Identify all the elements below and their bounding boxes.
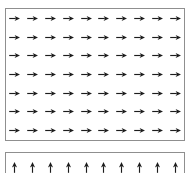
arrow-icon <box>26 31 39 44</box>
arrow-icon <box>44 49 57 62</box>
arrow-cell <box>131 31 149 44</box>
arrow-cell <box>113 105 131 118</box>
arrow-cell <box>95 124 113 137</box>
arrow-cell <box>148 31 166 44</box>
arrow-cell <box>24 124 42 137</box>
arrow-icon <box>8 105 21 118</box>
arrow-cell <box>59 161 77 174</box>
arrow-cell <box>77 68 95 81</box>
arrow-row <box>6 153 184 173</box>
arrow-cell <box>42 31 60 44</box>
arrow-cell <box>6 124 24 137</box>
arrow-cell <box>113 12 131 25</box>
arrow-cell <box>131 105 149 118</box>
arrow-cell <box>148 68 166 81</box>
arrow-icon <box>44 87 57 100</box>
arrow-grid-top <box>6 9 184 140</box>
arrow-icon <box>133 12 146 25</box>
arrow-icon <box>26 161 39 174</box>
arrow-icon <box>44 12 57 25</box>
arrow-icon <box>151 49 164 62</box>
arrow-cell <box>166 12 184 25</box>
arrow-cell <box>131 87 149 100</box>
arrow-row <box>6 84 184 103</box>
arrow-icon <box>80 105 93 118</box>
arrow-icon <box>169 68 182 81</box>
arrow-icon <box>169 161 182 174</box>
arrow-icon <box>62 49 75 62</box>
arrow-icon <box>97 31 110 44</box>
arrow-icon <box>8 87 21 100</box>
arrow-cell <box>24 105 42 118</box>
arrow-icon <box>62 12 75 25</box>
arrow-cell <box>148 49 166 62</box>
arrow-cell <box>42 68 60 81</box>
arrow-icon <box>133 49 146 62</box>
arrow-icon <box>133 68 146 81</box>
arrow-icon <box>97 105 110 118</box>
arrow-icon <box>8 12 21 25</box>
arrow-icon <box>97 12 110 25</box>
arrow-icon <box>62 105 75 118</box>
arrow-icon <box>169 87 182 100</box>
arrow-cell <box>24 12 42 25</box>
arrow-icon <box>169 12 182 25</box>
arrow-icon <box>151 31 164 44</box>
arrow-icon <box>8 68 21 81</box>
arrow-icon <box>8 49 21 62</box>
arrow-cell <box>131 68 149 81</box>
arrow-cell <box>113 161 131 174</box>
arrow-icon <box>26 87 39 100</box>
arrow-icon <box>26 105 39 118</box>
arrow-icon <box>8 161 21 174</box>
arrow-row <box>6 121 184 140</box>
arrow-cell <box>131 49 149 62</box>
arrow-icon <box>80 161 93 174</box>
arrow-cell <box>24 31 42 44</box>
arrow-icon <box>26 49 39 62</box>
arrow-row <box>6 9 184 28</box>
arrow-cell <box>59 31 77 44</box>
arrow-icon <box>115 87 128 100</box>
arrow-icon <box>80 31 93 44</box>
vector-field-panel-top <box>5 8 185 141</box>
arrow-icon <box>115 68 128 81</box>
arrow-row <box>6 46 184 65</box>
arrow-icon <box>80 12 93 25</box>
arrow-cell <box>59 49 77 62</box>
arrow-icon <box>62 161 75 174</box>
arrow-icon <box>151 161 164 174</box>
arrow-cell <box>77 87 95 100</box>
arrow-cell <box>59 124 77 137</box>
arrow-icon <box>115 105 128 118</box>
arrow-cell <box>166 124 184 137</box>
arrow-icon <box>26 68 39 81</box>
arrow-icon <box>151 124 164 137</box>
arrow-icon <box>97 161 110 174</box>
arrow-icon <box>80 87 93 100</box>
arrow-cell <box>59 87 77 100</box>
arrow-cell <box>148 87 166 100</box>
arrow-cell <box>77 161 95 174</box>
arrow-icon <box>44 105 57 118</box>
arrow-cell <box>131 161 149 174</box>
arrow-icon <box>8 31 21 44</box>
arrow-cell <box>42 12 60 25</box>
arrow-icon <box>80 49 93 62</box>
arrow-row <box>6 103 184 122</box>
arrow-cell <box>148 124 166 137</box>
arrow-cell <box>42 87 60 100</box>
arrow-icon <box>26 124 39 137</box>
arrow-icon <box>133 105 146 118</box>
arrow-icon <box>169 49 182 62</box>
arrow-icon <box>62 124 75 137</box>
arrow-icon <box>169 124 182 137</box>
arrow-cell <box>77 124 95 137</box>
arrow-icon <box>115 124 128 137</box>
arrow-cell <box>24 68 42 81</box>
arrow-cell <box>6 49 24 62</box>
arrow-cell <box>95 49 113 62</box>
arrow-row <box>6 28 184 47</box>
arrow-icon <box>44 31 57 44</box>
arrow-cell <box>95 12 113 25</box>
